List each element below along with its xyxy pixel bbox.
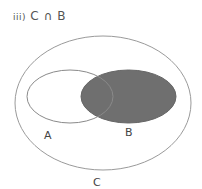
set-b-ellipse bbox=[81, 70, 176, 123]
venn-shapes bbox=[0, 0, 202, 189]
venn-diagram: iii) C ∩ B A B C bbox=[0, 0, 202, 189]
label-b: B bbox=[125, 126, 133, 139]
label-a: A bbox=[44, 129, 52, 142]
label-c: C bbox=[93, 176, 101, 189]
